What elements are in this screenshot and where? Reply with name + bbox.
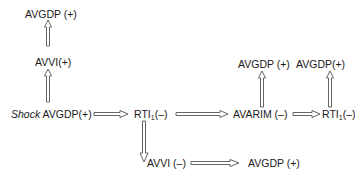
rti-sign: (–) [343, 108, 355, 120]
right-arrow-avvi-to-avgdp [191, 160, 239, 167]
right-arrow-shock-to-rti [94, 111, 128, 118]
up-arrow-shock-to-avvi [45, 69, 52, 102]
node-rti2-up-avgdp: AVGDP(+) [296, 58, 345, 70]
node-rti-1: RTI1(–) [134, 108, 167, 120]
down-arrow-rti-to-avvi [140, 121, 148, 162]
rti-label: RTI [134, 108, 151, 120]
node-avvi-positive: AVVI(+) [35, 56, 71, 68]
node-top-avgdp: AVGDP (+) [25, 8, 77, 20]
node-shock-avgdp: Shock AVGDP(+) [11, 108, 92, 120]
node-rti-2: RTI1(–) [322, 108, 355, 120]
shock-label: Shock [11, 108, 40, 120]
up-arrow-avarim-to-avgdp [259, 71, 266, 107]
node-avvi-negative: AVVI (–) [147, 157, 186, 169]
shock-avgdp-label: AVGDP(+) [43, 108, 92, 120]
rti-sign: (–) [155, 108, 168, 120]
up-arrow-rti-to-avgdp [327, 71, 334, 107]
up-arrow-avvi-to-avgdp [45, 20, 52, 46]
right-arrow-rti-to-avarim [176, 111, 228, 118]
node-bottom-avgdp: AVGDP (+) [248, 157, 300, 169]
right-arrow-avarim-to-rti [293, 111, 320, 118]
rti-label: RTI [322, 108, 339, 120]
node-avarim: AVARIM (–) [233, 108, 287, 120]
node-avarim-up-avgdp: AVGDP (+) [238, 58, 290, 70]
